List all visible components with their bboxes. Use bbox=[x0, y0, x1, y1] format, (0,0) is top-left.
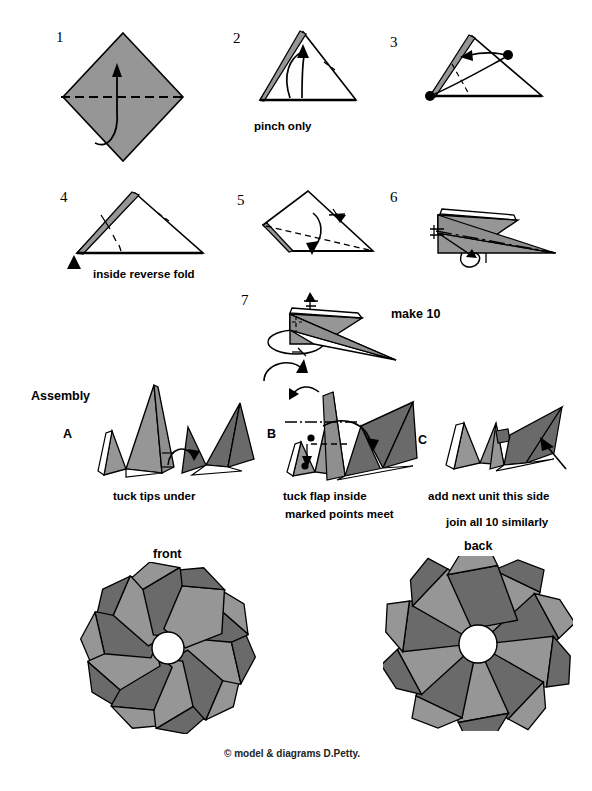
figure-step-5 bbox=[245, 183, 385, 263]
inside-reverse-fold-arrow bbox=[66, 255, 84, 271]
caption-assembly-b-line1: tuck flap inside bbox=[283, 491, 367, 503]
caption-assembly-c-line1: add next unit this side bbox=[428, 491, 549, 503]
figure-result-front bbox=[73, 562, 263, 734]
figure-assembly-a bbox=[82, 383, 262, 483]
caption-step-2: pinch only bbox=[254, 121, 312, 133]
step-number-7: 7 bbox=[241, 293, 249, 308]
caption-step-7: make 10 bbox=[391, 308, 440, 321]
figure-result-back bbox=[383, 556, 573, 731]
figure-step-2 bbox=[238, 22, 368, 112]
figure-step-1 bbox=[55, 25, 195, 165]
copyright-notice: © model & diagrams D.Petty. bbox=[224, 749, 360, 759]
step-number-3: 3 bbox=[390, 35, 398, 50]
step-number-5: 5 bbox=[237, 193, 245, 208]
caption-step-4: inside reverse fold bbox=[93, 269, 195, 281]
label-result-back: back bbox=[464, 540, 493, 553]
caption-assembly-c-line2: join all 10 similarly bbox=[446, 517, 548, 529]
caption-assembly-b-line2: marked points meet bbox=[285, 509, 394, 521]
assembly-letter-c: C bbox=[418, 434, 427, 447]
step-number-6: 6 bbox=[390, 190, 398, 205]
label-result-front: front bbox=[153, 548, 181, 561]
caption-assembly-a: tuck tips under bbox=[113, 491, 195, 503]
assembly-letter-b: B bbox=[267, 428, 276, 441]
assembly-letter-a: A bbox=[63, 428, 72, 441]
figure-step-3 bbox=[412, 22, 582, 112]
figure-step-6 bbox=[420, 195, 580, 275]
diagram-page: 1 2 pinch only 3 bbox=[0, 0, 592, 791]
figure-step-4 bbox=[63, 185, 223, 265]
figure-assembly-c bbox=[434, 405, 584, 485]
